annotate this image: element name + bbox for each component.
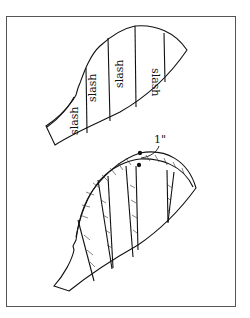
slash-labels: slash slash slash slash — [68, 60, 162, 135]
slash-label-4: slash — [149, 68, 162, 96]
slash-label-2: slash — [86, 74, 99, 102]
slash-label-1: slash — [68, 107, 81, 135]
lower-pattern-piece — [54, 151, 196, 291]
measurement-label: 1" — [154, 133, 166, 146]
slash-label-3: slash — [113, 60, 126, 88]
sleeve-pattern-diagram: slash slash slash slash 1" — [0, 0, 250, 318]
